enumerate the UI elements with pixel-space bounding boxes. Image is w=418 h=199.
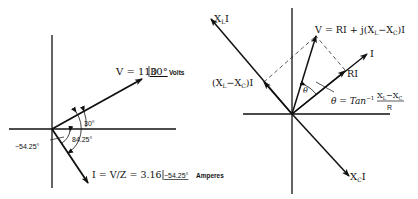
dashed-line-ri-v: [316, 36, 345, 70]
current-angle: −54.25°: [164, 172, 189, 179]
ri-phasor-arrow: [292, 71, 345, 114]
voltage-phasor-arrow: [52, 79, 142, 129]
xl-i-label: XLI: [214, 13, 229, 25]
phasor-diagrams: V = 110 30° Volts 30° 84.25° −54.25° I =…: [0, 0, 418, 199]
left-phasor-diagram: V = 110 30° Volts 30° 84.25° −54.25° I =…: [9, 35, 224, 188]
ri-label: RI: [347, 68, 358, 79]
angle-label-30: 30°: [84, 120, 95, 127]
theta-symbol: θ: [303, 86, 308, 95]
voltage-angle: 30°: [150, 66, 168, 77]
fraction-numerator: XL−XC: [377, 91, 402, 101]
fraction-denominator: R: [387, 104, 392, 111]
angle-label-84: 84.25°: [72, 136, 93, 143]
angle-label-minus54: −54.25°: [15, 143, 40, 150]
xlxc-i-arrow: [264, 82, 292, 114]
current-unit: Amperes: [196, 172, 224, 180]
theta-equation: θ = Tan−1: [331, 95, 374, 106]
v-phasor-arrow: [292, 36, 316, 114]
v-equation-label: V = RI + j(XL−XC)I: [314, 24, 405, 36]
xc-i-phasor-arrow: [292, 114, 349, 176]
right-phasor-diagram: XLI V = RI + j(XL−XC)I I RI (XL−XC)I θ θ…: [211, 8, 405, 194]
current-label: I = V/Z = 3.16: [92, 169, 162, 180]
voltage-unit: Volts: [169, 69, 185, 76]
xc-i-label: XCI: [350, 171, 366, 183]
xlxc-i-label: (XL−XC)I: [212, 77, 254, 89]
i-label: I: [370, 48, 374, 59]
